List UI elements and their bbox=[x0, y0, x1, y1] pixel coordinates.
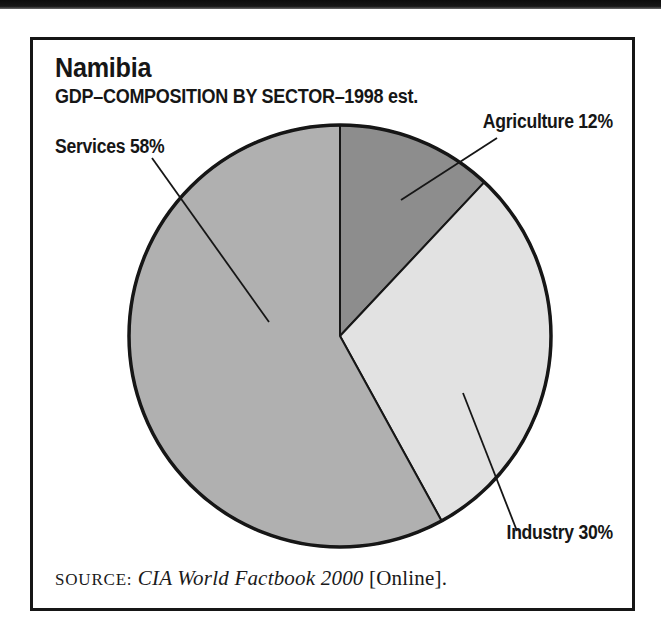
pie-slices-group bbox=[129, 125, 551, 547]
slice-label-agriculture: Agriculture 12% bbox=[483, 110, 613, 133]
chart-subtitle: GDP–COMPOSITION BY SECTOR–1998 est. bbox=[55, 85, 418, 108]
source-citation: CIA World Factbook 2000 bbox=[138, 566, 364, 590]
figure-page: Namibia GDP–COMPOSITION BY SECTOR–1998 e… bbox=[0, 0, 661, 643]
source-line: SOURCE: CIA World Factbook 2000 [Online]… bbox=[55, 566, 447, 591]
source-prefix: SOURCE: bbox=[55, 570, 132, 589]
slice-label-industry: Industry 30% bbox=[507, 521, 613, 544]
source-suffix: [Online]. bbox=[369, 566, 447, 590]
chart-title: Namibia bbox=[55, 52, 151, 84]
slice-label-services: Services 58% bbox=[55, 135, 164, 158]
